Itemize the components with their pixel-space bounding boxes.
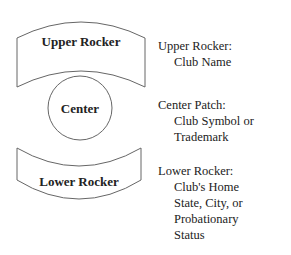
lower-rocker-line: Status xyxy=(158,227,243,243)
upper-rocker-description: Upper Rocker: Club Name xyxy=(158,38,232,70)
center-patch-line: Trademark xyxy=(158,129,254,145)
lower-rocker-shape: Lower Rocker xyxy=(17,148,141,199)
center-patch-line: Club Symbol or xyxy=(158,113,254,129)
center-patch-shape: Center xyxy=(48,76,112,140)
center-patch-description: Center Patch: Club Symbol or Trademark xyxy=(158,97,254,145)
upper-rocker-heading: Upper Rocker: xyxy=(158,38,232,54)
lower-rocker-line: State, City, or xyxy=(158,195,243,211)
center-patch-heading: Center Patch: xyxy=(158,97,254,113)
upper-rocker-line: Club Name xyxy=(158,54,232,70)
lower-rocker-description: Lower Rocker: Club's Home State, City, o… xyxy=(158,163,243,243)
upper-rocker-label: Upper Rocker xyxy=(42,34,121,49)
lower-rocker-heading: Lower Rocker: xyxy=(158,163,243,179)
lower-rocker-line: Probationary xyxy=(158,211,243,227)
center-label: Center xyxy=(61,101,99,116)
lower-rocker-label: Lower Rocker xyxy=(39,174,119,189)
lower-rocker-line: Club's Home xyxy=(158,179,243,195)
